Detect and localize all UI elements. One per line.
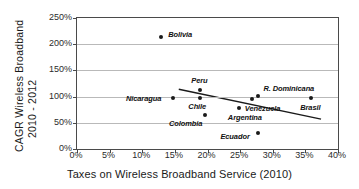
data-point-label: Bolivia: [168, 30, 192, 39]
data-point: [203, 113, 207, 117]
data-point: [309, 96, 313, 100]
data-point: [237, 106, 241, 110]
y-axis-tick-mark: [73, 18, 77, 19]
y-axis-tick-label: 250%: [32, 12, 72, 22]
data-point: [250, 97, 254, 101]
y-axis-title-line-1: CAGR Wireless Broadband: [13, 20, 25, 152]
gridline-horizontal: [77, 70, 338, 71]
data-point: [198, 88, 202, 92]
y-axis-tick-label: 150%: [32, 64, 72, 74]
x-axis-tick-label: 10%: [132, 150, 150, 160]
gridline-horizontal: [77, 123, 338, 124]
x-axis-tick-label: 15%: [165, 150, 183, 160]
data-point-label: Peru: [191, 76, 207, 85]
y-axis-tick-mark: [73, 97, 77, 98]
data-point-label: Brasil: [300, 103, 320, 112]
y-axis-tick-label: 50%: [32, 117, 72, 127]
x-axis-tick-labels: 0%5%10%15%20%25%30%35%40%: [76, 150, 337, 164]
data-point-label: Colombia: [169, 119, 202, 128]
data-point: [159, 35, 163, 39]
x-axis-tick-label: 30%: [263, 150, 281, 160]
y-axis-tick-label: 0%: [32, 143, 72, 153]
x-axis-tick-label: 20%: [197, 150, 215, 160]
chart-figure: CAGR Wireless Broadband 2010 - 2012 0%50…: [0, 0, 359, 189]
data-point-label: Venezuela: [245, 104, 281, 113]
data-point: [198, 96, 202, 100]
y-axis-tick-mark: [73, 44, 77, 45]
y-axis-tick-label: 200%: [32, 38, 72, 48]
data-point-label: Chile: [188, 102, 206, 111]
data-point-label: Nicaragua: [126, 94, 161, 103]
data-point: [256, 131, 260, 135]
x-axis-tick-label: 0%: [69, 150, 82, 160]
y-axis-tick-labels: 0%50%100%150%200%250%: [32, 0, 72, 189]
x-axis-tick-label: 35%: [295, 150, 313, 160]
data-point-label: Ecuador: [220, 132, 249, 141]
y-axis-title: CAGR Wireless Broadband 2010 - 2012: [0, 0, 32, 160]
y-axis-tick-mark: [73, 70, 77, 71]
y-axis-tick-mark: [73, 123, 77, 124]
data-point-label: R. Dominicana: [263, 84, 314, 93]
y-axis-tick-label: 100%: [32, 91, 72, 101]
gridline-horizontal: [77, 44, 338, 45]
x-axis-tick-label: 40%: [328, 150, 346, 160]
x-axis-tick-label: 5%: [102, 150, 115, 160]
x-axis-tick-label: 25%: [230, 150, 248, 160]
x-axis-title: Taxes on Wireless Broadband Service (201…: [0, 168, 359, 180]
plot-area: BoliviaNicaraguaPeruChileColombiaArgenti…: [76, 17, 339, 150]
data-point: [171, 96, 175, 100]
gridline-horizontal: [77, 97, 338, 98]
data-point-label: Argentina: [228, 113, 262, 122]
